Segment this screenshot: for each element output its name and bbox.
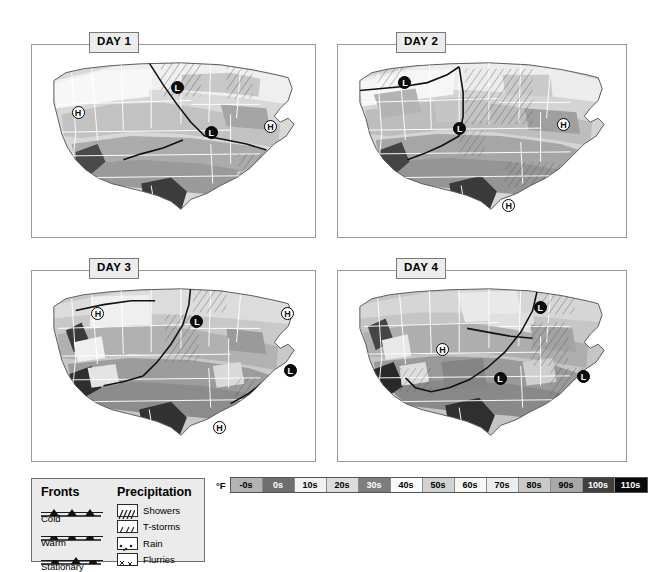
panel-label-day3: DAY 3 <box>89 258 139 279</box>
pressure-marker-low: L <box>494 372 507 385</box>
temperature-band-90s: 90s <box>551 478 583 492</box>
legend-precip-showers: Showers <box>117 504 204 516</box>
temperature-scale: °F -0s0s10s20s30s40s50s60s70s80s90s100s1… <box>216 477 648 493</box>
legend-precip-tstorms: T-storms <box>117 521 204 533</box>
temperature-band-70s: 70s <box>487 478 519 492</box>
panel-label-day1: DAY 1 <box>89 32 139 53</box>
legend-front-cold: Cold <box>41 504 111 524</box>
temperature-unit-label: °F <box>216 480 226 491</box>
temperature-band-0s: -0s <box>231 478 263 492</box>
panel-label-day4: DAY 4 <box>396 258 446 279</box>
temperature-band-0s: 0s <box>263 478 295 492</box>
weather-map-panel-day4[interactable]: DAY 4 <box>337 270 627 462</box>
legend-precipitation-heading: Precipitation <box>117 485 204 499</box>
legend-precip-rain: Rain <box>117 537 204 549</box>
usa-temperature-map-day4 <box>338 271 626 461</box>
pressure-marker-high: H <box>502 199 515 212</box>
temperature-band-30s: 30s <box>359 478 391 492</box>
legend-front-warm: Warm <box>41 528 111 548</box>
temperature-band-20s: 20s <box>327 478 359 492</box>
legend-fronts-heading: Fronts <box>41 485 111 499</box>
usa-temperature-map-day1 <box>32 45 315 237</box>
map-legend: Fronts Cold Warm <box>31 478 205 562</box>
map-area-day1 <box>32 45 315 237</box>
legend-front-stationary: Stationary <box>41 552 111 572</box>
pressure-marker-low: L <box>284 364 297 377</box>
showers-pattern-swatch <box>117 504 138 517</box>
temperature-band-60s: 60s <box>455 478 487 492</box>
pressure-marker-low: L <box>453 122 466 135</box>
legend-precip-rain-label: Rain <box>143 538 163 549</box>
legend-precip-showers-label: Showers <box>143 505 180 516</box>
map-area-day4 <box>338 271 626 461</box>
temperature-band-40s: 40s <box>391 478 423 492</box>
temperature-band-110s: 110s <box>615 478 647 492</box>
pressure-marker-high: H <box>557 118 570 131</box>
weather-map-panel-day3[interactable]: DAY 3 <box>31 270 316 462</box>
cold-front-symbol <box>41 504 111 513</box>
rain-pattern-swatch <box>117 537 138 550</box>
usa-temperature-map-day3 <box>32 271 315 461</box>
legend-fronts-column: Fronts Cold Warm <box>32 485 111 561</box>
panel-label-day2: DAY 2 <box>396 32 446 53</box>
map-area-day2 <box>338 45 626 237</box>
pressure-marker-low: L <box>205 126 218 139</box>
legend-precip-tstorms-label: T-storms <box>143 521 180 532</box>
warm-front-symbol <box>41 528 111 537</box>
pressure-marker-high: H <box>264 120 277 133</box>
legend-precip-flurries: Flurries <box>117 554 204 566</box>
temperature-band-100s: 100s <box>583 478 615 492</box>
legend-precipitation-column: Precipitation Showers <box>111 485 204 561</box>
temperature-scale-bar: -0s0s10s20s30s40s50s60s70s80s90s100s110s <box>230 477 648 493</box>
usa-temperature-map-day2 <box>338 45 626 237</box>
tstorms-pattern-swatch <box>117 520 138 533</box>
temperature-band-50s: 50s <box>423 478 455 492</box>
legend-precip-flurries-label: Flurries <box>143 554 175 565</box>
flurries-pattern-swatch <box>117 553 138 566</box>
temperature-band-80s: 80s <box>519 478 551 492</box>
pressure-marker-high: H <box>436 343 449 356</box>
weather-map-panel-day1[interactable]: DAY 1 <box>31 44 316 238</box>
map-area-day3 <box>32 271 315 461</box>
weather-map-panel-day2[interactable]: DAY 2 <box>337 44 627 238</box>
stationary-front-symbol <box>41 552 111 561</box>
pressure-marker-high: H <box>72 106 85 119</box>
pressure-marker-low: L <box>577 370 590 383</box>
temperature-band-10s: 10s <box>295 478 327 492</box>
